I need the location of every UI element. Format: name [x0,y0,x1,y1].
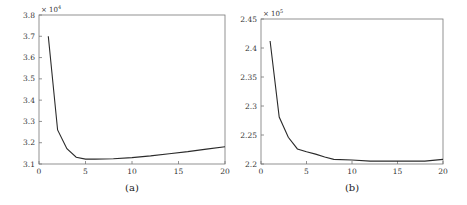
y-multiplier-base: × 10 [41,6,58,14]
series-line-curve [270,41,443,161]
y-multiplier-label: × 104 [41,4,61,14]
x-tick-label: 0 [37,167,42,176]
chart-a: 3.13.23.33.43.53.63.73.805101520× 104(a) [23,4,230,193]
chart-caption: (b) [345,182,359,193]
y-tick-label: 2.25 [240,131,257,140]
plot-frame [39,15,225,164]
x-tick-label: 15 [393,167,403,176]
y-tick-label: 3.6 [23,53,35,62]
x-tick-label: 5 [83,167,88,176]
figure: 3.13.23.33.43.53.63.73.805101520× 104(a)… [0,0,467,205]
y-tick-label: 2.45 [240,15,257,24]
y-tick-label: 3.3 [23,117,35,126]
chart-caption: (a) [125,182,139,193]
y-tick-label: 2.3 [245,102,257,111]
y-tick-label: 3.8 [23,11,35,20]
x-tick-label: 20 [438,167,448,176]
y-tick-label: 3.5 [23,74,35,83]
plot-frame [261,19,443,164]
series-line-curve [48,36,225,159]
y-tick-label: 3.1 [23,160,35,169]
y-tick-label: 2.35 [240,73,257,82]
x-tick-label: 10 [127,167,137,176]
x-tick-label: 5 [304,167,309,176]
y-tick-label: 3.4 [23,96,35,105]
chart-b: 2.22.252.32.352.42.4505101520× 105(b) [240,8,448,193]
y-tick-label: 3.2 [23,138,35,147]
x-tick-label: 0 [259,167,264,176]
x-tick-label: 10 [347,167,357,176]
y-tick-label: 2.4 [245,44,257,53]
y-multiplier-label: × 105 [263,8,283,18]
y-multiplier-base: × 10 [263,10,280,18]
x-tick-label: 20 [220,167,230,176]
y-tick-label: 3.7 [23,32,35,41]
y-tick-label: 2.2 [245,160,257,169]
x-tick-label: 15 [174,167,184,176]
y-multiplier-exponent: 5 [280,8,283,14]
y-multiplier-exponent: 4 [58,4,61,10]
